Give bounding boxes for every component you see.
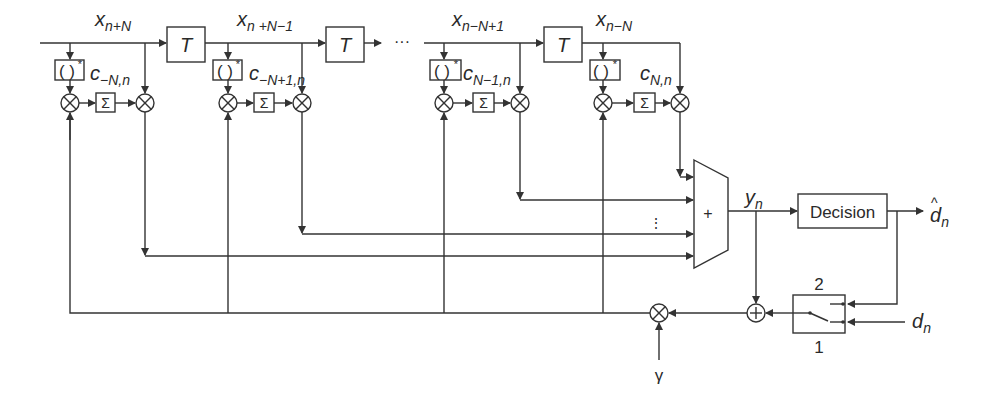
adder-input-ellipsis: ⋮: [649, 215, 663, 231]
tap-3: ( ) * Σ cN−1,n: [430, 43, 529, 112]
sigma-icon: Σ: [479, 95, 488, 111]
delay-ellipsis: ···: [394, 33, 410, 50]
decision-block: Decision: [798, 194, 887, 228]
sigma-icon: Σ: [260, 95, 269, 111]
svg-text:( ): ( ): [217, 62, 233, 81]
step-size-label: γ: [655, 366, 664, 385]
multiplier-icon: [435, 94, 453, 112]
tap-1: ( ) * Σ c−N,n: [55, 43, 154, 112]
multiplier-icon: [511, 94, 529, 112]
signal-label-4: xn−N: [595, 8, 633, 34]
svg-text:( ): ( ): [434, 62, 450, 81]
svg-text:*: *: [78, 58, 83, 70]
svg-text:*: *: [236, 58, 241, 70]
multiplier-icon: [61, 94, 79, 112]
signal-label-2: xn +N−1: [236, 8, 293, 34]
switch-position-2: 2: [814, 275, 823, 294]
coefficient-label: cN−1,n: [463, 62, 511, 88]
tap-2: ( ) * Σ c−N+1,n: [213, 43, 311, 112]
delay-line: T T ··· T xn+N xn +N−1 xn−N+1 xn−N: [40, 8, 680, 62]
tap-output-routing: ⋮: [145, 112, 693, 256]
svg-text:*: *: [613, 58, 618, 70]
coefficient-label: c−N,n: [90, 62, 130, 88]
output-label: yn: [743, 186, 763, 212]
adder-label: +: [703, 205, 712, 222]
coefficient-label: c−N+1,n: [249, 62, 305, 88]
signal-label-3: xn−N+1: [451, 8, 504, 34]
delay-label-3: T: [557, 34, 571, 56]
sigma-icon: Σ: [101, 95, 110, 111]
error-summer-icon: [747, 304, 765, 322]
step-size-multiplier-icon: [650, 304, 668, 322]
conjugate-label: ( ): [59, 62, 75, 81]
equalizer-diagram: T T ··· T xn+N xn +N−1 xn−N+1 xn−N ( ) *…: [0, 0, 994, 406]
delay-label-2: T: [339, 34, 353, 56]
switch-position-1: 1: [814, 338, 823, 357]
training-switch: 2 1: [793, 275, 845, 357]
multiplier-icon: [293, 94, 311, 112]
signal-label-1: xn+N: [94, 8, 132, 34]
multiplier-icon: [219, 94, 237, 112]
multiplier-icon: [594, 94, 612, 112]
svg-text:( ): ( ): [593, 62, 609, 81]
multiplier-icon: [671, 94, 689, 112]
sigma-icon: Σ: [640, 95, 649, 111]
decision-label: Decision: [810, 203, 875, 222]
svg-text:*: *: [454, 58, 459, 70]
coefficient-label: cN,n: [640, 62, 672, 88]
delay-label-1: T: [180, 34, 194, 56]
error-feedback-bus: [70, 113, 650, 313]
multiplier-icon: [136, 94, 154, 112]
training-input-label: dn: [912, 310, 931, 336]
tap-4: ( ) * Σ cN,n: [590, 43, 689, 112]
adder-block: +: [694, 160, 728, 268]
hat-accent: ^: [931, 195, 938, 211]
